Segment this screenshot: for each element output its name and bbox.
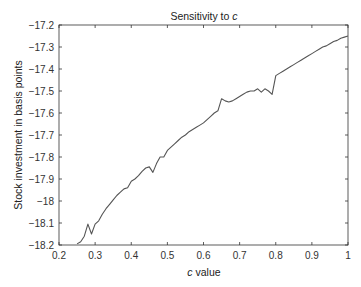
plot-area: 0.20.30.40.50.60.70.80.91 −17.2−17.3−17.… bbox=[29, 20, 352, 262]
x-tick-label: 0.6 bbox=[197, 250, 211, 261]
x-tick-label: 0.7 bbox=[233, 250, 247, 261]
y-tick-label: −17.7 bbox=[29, 130, 55, 141]
y-tick-label: −18.2 bbox=[29, 240, 55, 251]
y-axis: −17.2−17.3−17.4−17.5−17.6−17.7−17.8−17.9… bbox=[29, 20, 348, 251]
y-tick-label: −17.3 bbox=[29, 42, 55, 53]
y-tick-label: −17.4 bbox=[29, 64, 55, 75]
x-tick-label: 0.8 bbox=[269, 250, 283, 261]
x-axis: 0.20.30.40.50.60.70.80.91 bbox=[52, 25, 351, 261]
x-tick-label: 0.2 bbox=[52, 250, 66, 261]
line-chart: Sensitivity to c 0.20.30.40.50.60.70.80.… bbox=[0, 0, 361, 287]
x-tick-label: 0.4 bbox=[124, 250, 138, 261]
y-tick-label: −18.1 bbox=[29, 218, 55, 229]
data-line bbox=[77, 36, 348, 244]
y-tick-label: −18 bbox=[37, 196, 54, 207]
y-tick-label: −17.2 bbox=[29, 20, 55, 31]
y-axis-label: Stock investment in basis points bbox=[12, 60, 24, 209]
x-axis-label: c value bbox=[187, 266, 220, 278]
x-tick-label: 0.3 bbox=[88, 250, 102, 261]
y-tick-label: −17.8 bbox=[29, 152, 55, 163]
y-tick-label: −17.9 bbox=[29, 174, 55, 185]
chart-title: Sensitivity to c bbox=[170, 10, 238, 22]
y-tick-label: −17.5 bbox=[29, 86, 55, 97]
x-tick-label: 0.9 bbox=[305, 250, 319, 261]
y-tick-label: −17.6 bbox=[29, 108, 55, 119]
x-tick-label: 1 bbox=[345, 250, 351, 261]
x-tick-label: 0.5 bbox=[160, 250, 174, 261]
